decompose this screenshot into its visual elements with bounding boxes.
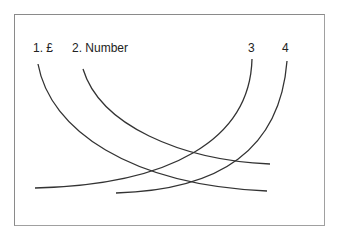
curve-1 — [38, 64, 267, 191]
curve-4 — [116, 61, 287, 193]
curve-2 — [83, 69, 270, 164]
curves-canvas — [0, 0, 340, 246]
